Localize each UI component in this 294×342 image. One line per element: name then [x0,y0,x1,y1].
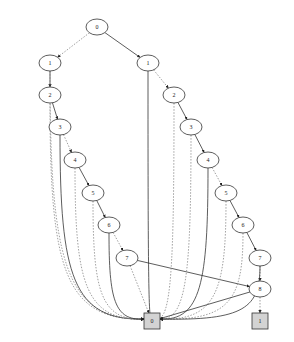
node-label: 2 [173,92,176,98]
edge-a3-a4-low [63,135,71,153]
decision-node-a2: 2 [39,87,61,103]
edge-n0-b1-high [105,33,140,58]
edges-layer [50,33,260,320]
diagram-canvas: 012345671234567801 [0,0,294,342]
edge-b7-t0-high [160,266,260,319]
node-label: 5 [225,190,228,196]
terminal-node-t1: 1 [252,313,268,329]
node-label: 7 [126,255,129,261]
node-label: 4 [74,157,77,163]
decision-node-a6: 6 [98,217,120,233]
edge-b1-b2-low [154,70,169,88]
edge-b2-t0-low [156,103,174,319]
edge-b5-b6-high [230,200,239,217]
edge-b1-t0-high [148,71,151,319]
bdd-diagram: 012345671234567801 [0,0,294,342]
edge-n0-a1-low [58,33,90,57]
decision-node-a1: 1 [39,55,61,71]
edge-a7-t0-low [130,266,149,313]
decision-node-b6: 6 [232,217,254,233]
edge-b3-t0-low [160,135,191,319]
node-label: 0 [151,318,154,324]
edge-b4-b5-low [212,167,222,185]
decision-node-b2: 2 [163,87,185,103]
node-label: 7 [259,255,262,261]
node-label: 1 [147,60,150,66]
edge-a4-a5-high [79,167,89,185]
edge-a7-b8-high [137,260,249,286]
edge-a5-a6-high [97,201,105,218]
decision-node-b3: 3 [180,119,202,135]
decision-node-b5: 5 [215,185,237,201]
edge-a6-a7-low [113,232,123,250]
decision-node-b7: 7 [249,250,271,266]
node-label: 6 [242,222,245,228]
decision-node-b8: 8 [249,281,271,297]
terminal-node-t0: 0 [144,313,160,329]
edge-a2-a3-high [52,103,57,119]
node-label: 2 [49,92,52,98]
decision-node-b1: 1 [137,55,159,71]
decision-node-a4: 4 [64,152,86,168]
decision-node-a3: 3 [49,119,71,135]
edge-b8-t0-high [160,292,250,319]
node-label: 3 [59,124,62,130]
node-label: 4 [207,157,210,163]
node-label: 3 [190,124,193,130]
edge-b6-b7-high [247,232,256,250]
decision-node-n0: 0 [86,19,108,35]
node-label: 0 [96,24,99,30]
node-label: 8 [259,286,262,292]
node-label: 1 [259,318,262,324]
edge-b4-t0-high [160,168,208,319]
node-label: 1 [49,60,52,66]
node-label: 5 [92,190,95,196]
decision-node-a7: 7 [116,250,138,266]
edge-b5-t0-low [160,201,226,319]
node-label: 6 [108,222,111,228]
edge-b3-b4-high [195,134,204,152]
edge-a6-t0-high [109,233,144,319]
decision-node-b4: 4 [197,152,219,168]
edge-b2-b3-high [178,102,187,119]
decision-node-a5: 5 [82,185,104,201]
